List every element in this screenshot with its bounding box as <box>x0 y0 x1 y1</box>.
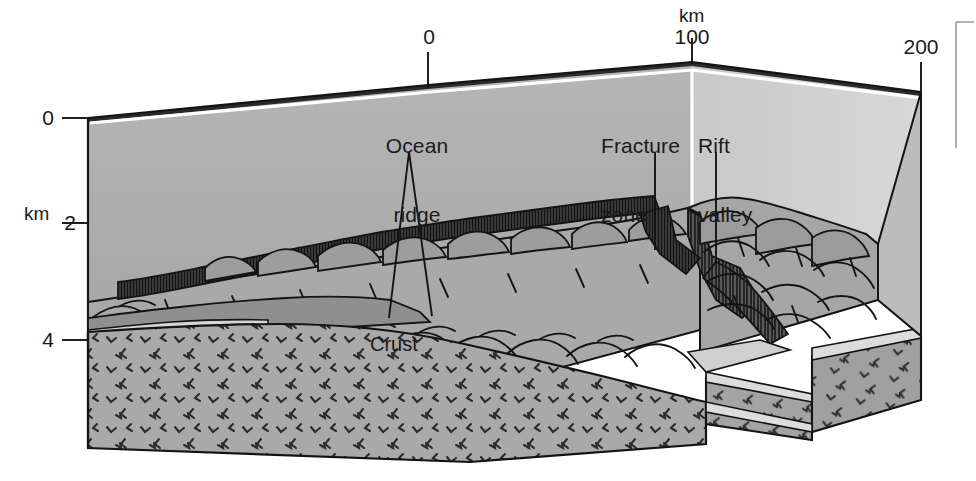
annotation-rift-valley-line2: valley <box>698 203 788 226</box>
annotation-fracture-zone-line1: Fracture <box>601 134 711 157</box>
annotation-fracture-zone: Fracture zone <box>601 88 711 249</box>
axis-x-unit-label: km <box>679 5 704 26</box>
crust-block-right-step <box>812 328 921 432</box>
axis-y-tick-label-2: 2 <box>60 212 80 234</box>
figure-canvas: 0 km 100 200 km 0 2 4 Ocean ridge Fractu… <box>0 0 976 481</box>
annotation-ocean-ridge-line2: ridge <box>369 203 465 226</box>
annotation-rift-valley-line1: Rift <box>698 134 788 157</box>
axis-y-tick-label-4: 4 <box>38 329 58 351</box>
axis-y-tick-label-0: 0 <box>38 107 58 129</box>
page-frame-rule <box>956 22 974 148</box>
axis-y-unit-label: km <box>24 203 49 224</box>
block-diagram-svg <box>0 0 976 481</box>
axis-x-tick-label-0: 0 <box>418 26 440 48</box>
annotation-fracture-zone-line2: zone <box>601 203 711 226</box>
axis-x-tick-label-100: 100 <box>667 26 717 48</box>
annotation-rift-valley: Rift valley <box>698 88 788 249</box>
annotation-ocean-ridge: Ocean ridge <box>369 88 465 249</box>
axis-x-tick-label-200: 200 <box>896 36 946 58</box>
layer-label-crust: Crust <box>370 333 418 356</box>
annotation-ocean-ridge-line1: Ocean <box>369 134 465 157</box>
